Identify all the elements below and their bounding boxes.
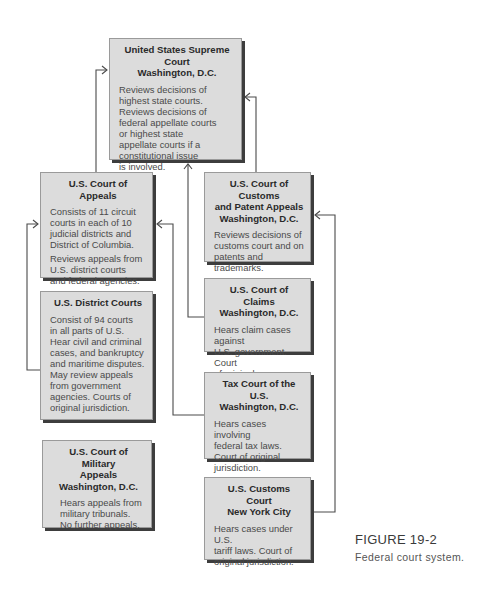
- edge-appeals-to-supreme: [96, 70, 107, 172]
- node-customs-patent-appeals: U.S. Court of Customs and Patent Appeals…: [204, 172, 311, 262]
- edge-customs-patent-to-supreme: [245, 97, 256, 172]
- figure-description: Federal court system.: [355, 551, 464, 563]
- node-court-of-appeals: U.S. Court of Appeals Consists of 11 cir…: [40, 172, 153, 278]
- edge-district-to-appeals: [27, 224, 40, 370]
- edge-customs-to-customs-patent: [313, 215, 335, 512]
- edge-claims-to-supreme: [188, 164, 204, 317]
- node-description: Hears cases under U.S. tariff laws. Cour…: [214, 523, 304, 567]
- node-court-of-claims: U.S. Court of Claims Washington, D.C. He…: [204, 278, 311, 352]
- node-title: U.S. District Courts: [50, 297, 146, 309]
- node-title: U.S. Court of Customs and Patent Appeals…: [214, 178, 304, 224]
- node-title: U.S. Customs Court New York City: [214, 483, 304, 518]
- node-description: Consist of 94 courts in all parts of U.S…: [50, 314, 146, 413]
- node-military-appeals: U.S. Court of Military Appeals Washingto…: [42, 440, 152, 528]
- node-district-courts: U.S. District Courts Consist of 94 court…: [40, 291, 153, 420]
- node-description: Reviews appeals from U.S. district court…: [50, 253, 146, 286]
- node-description: Reviews decisions of highest state court…: [119, 84, 235, 172]
- figure-number: FIGURE 19-2: [355, 532, 464, 547]
- node-title: U.S. Court of Appeals: [50, 178, 146, 201]
- node-customs-court: U.S. Customs Court New York City Hears c…: [204, 477, 311, 560]
- node-tax-court: Tax Court of the U.S. Washington, D.C. H…: [204, 372, 311, 459]
- edge-tax-to-appeals: [157, 224, 204, 415]
- node-title: U.S. Court of Claims Washington, D.C.: [214, 284, 304, 319]
- node-supreme-court: United States Supreme Court Washington, …: [109, 38, 242, 160]
- node-title: Tax Court of the U.S. Washington, D.C.: [214, 378, 304, 413]
- node-description: Hears cases involving federal tax laws. …: [214, 418, 304, 473]
- node-title: U.S. Court of Military Appeals Washingto…: [52, 446, 145, 492]
- node-title: United States Supreme Court Washington, …: [119, 44, 235, 79]
- figure-caption: FIGURE 19-2 Federal court system.: [355, 532, 464, 563]
- node-description: Consists of 11 circuit courts in each of…: [50, 206, 146, 250]
- node-description: Hears appeals from military tribunals. N…: [52, 497, 145, 530]
- node-description: Reviews decisions of customs court and o…: [214, 229, 304, 273]
